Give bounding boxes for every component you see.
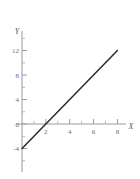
x-tick-label-4: 4 [68,128,72,136]
x-tick-label-8: 8 [116,128,120,136]
y-tick-label-4: 4 [16,96,20,104]
y-tick-label-minus-4: -4 [13,145,19,153]
chart-background [0,0,140,179]
y-tick-label-8: 8 [16,72,20,80]
y-tick-label-0: 0 [16,121,20,129]
x-tick-label-2: 2 [44,128,48,136]
figure-container: 12 8 4 0 -4 2 4 6 8 Y X [0,0,140,179]
line-chart: 12 8 4 0 -4 2 4 6 8 Y X [0,0,140,179]
x-tick-label-6: 6 [92,128,96,136]
y-tick-label-12: 12 [12,47,20,55]
